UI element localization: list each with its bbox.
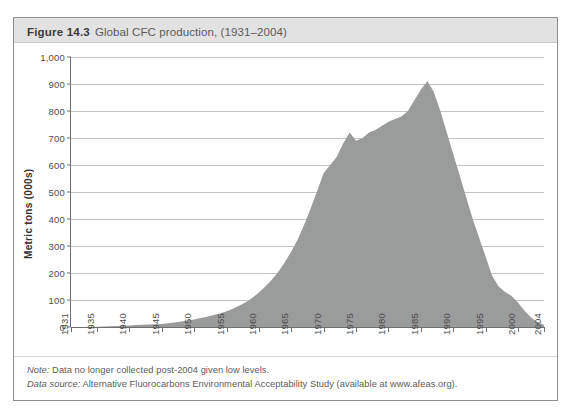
x-tick-mark [291, 327, 292, 332]
x-tick-mark [194, 327, 195, 332]
x-tick-mark [421, 327, 422, 332]
notes-divider [14, 356, 557, 357]
y-tick-label: 700 [49, 133, 65, 144]
x-tick-mark [97, 327, 98, 332]
x-tick-mark [518, 327, 519, 332]
note-row: Note: Data no longer collected post-2004… [27, 363, 545, 377]
note-label: Note: [27, 365, 49, 375]
x-tick-mark [71, 327, 72, 332]
x-tick-label: 1985 [408, 313, 419, 335]
x-tick-label: 1965 [279, 313, 290, 335]
x-tick-label: 1990 [441, 313, 452, 335]
y-tick-label: 500 [49, 187, 65, 198]
y-tick-label: 400 [49, 214, 65, 225]
x-tick-mark [129, 327, 130, 332]
chart-area: Metric tons (000s) 1,0009008007006005004… [14, 43, 557, 400]
area-series-svg [71, 57, 544, 327]
x-tick-mark [356, 327, 357, 332]
x-tick-label: 1975 [344, 313, 355, 335]
plot-inner: 1,0009008007006005004003002001000 193119… [71, 57, 544, 327]
figure-number: Figure 14.3 [27, 26, 90, 38]
area-series-polygon [71, 81, 544, 327]
x-tick-label: 1950 [182, 313, 193, 335]
y-axis-title: Metric tons (000s) [23, 149, 37, 279]
y-tick-label: 200 [49, 268, 65, 279]
x-tick-mark [162, 327, 163, 332]
x-tick-label: 1980 [376, 313, 387, 335]
figure-title-band: Figure 14.3Global CFC production, (1931–… [14, 18, 557, 43]
y-tick-label: 600 [49, 160, 65, 171]
y-tick-label: 900 [49, 79, 65, 90]
y-tick-label: 800 [49, 106, 65, 117]
x-tick-mark [388, 327, 389, 332]
x-tick-label: 1960 [246, 313, 257, 335]
x-tick-label: 1995 [473, 313, 484, 335]
figure-container: Figure 14.3Global CFC production, (1931–… [13, 17, 558, 401]
x-tick-label: 1935 [84, 313, 95, 335]
x-tick-label: 1931 [59, 313, 70, 335]
x-tick-label: 2004 [532, 313, 543, 335]
y-tick-label: 1,000 [40, 52, 65, 63]
x-tick-label: 1970 [311, 313, 322, 335]
y-tick-label: 100 [49, 295, 65, 306]
figure-notes: Note: Data no longer collected post-2004… [27, 363, 545, 391]
note-body: Data no longer collected post-2004 given… [49, 365, 269, 375]
figure-title: Figure 14.3Global CFC production, (1931–… [27, 22, 287, 40]
x-tick-mark [227, 327, 228, 332]
source-row: Data source: Alternative Fluorocarbons E… [27, 377, 545, 391]
y-tick-label: 300 [49, 241, 65, 252]
x-tick-mark [453, 327, 454, 332]
x-tick-label: 1955 [214, 313, 225, 335]
x-tick-mark [259, 327, 260, 332]
x-tick-mark [486, 327, 487, 332]
source-label: Data source: [27, 379, 80, 389]
x-tick-label: 1940 [117, 313, 128, 335]
source-body: Alternative Fluorocarbons Environmental … [80, 379, 457, 389]
figure-caption: Global CFC production, (1931–2004) [95, 26, 287, 38]
x-tick-mark [544, 327, 545, 332]
x-tick-label: 2000 [506, 313, 517, 335]
x-tick-mark [324, 327, 325, 332]
x-tick-label: 1945 [149, 313, 160, 335]
